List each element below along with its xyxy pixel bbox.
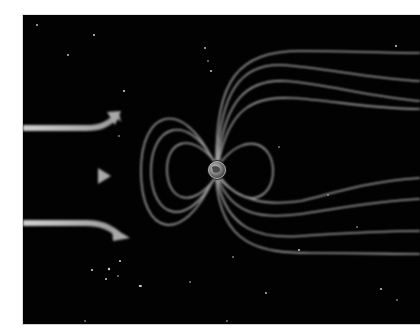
solar-wind-arrow-icon-upper (23, 111, 121, 128)
earth-icon (207, 160, 227, 180)
solar-wind-arrow-icon-lower (23, 223, 130, 241)
space-background (22, 14, 420, 325)
solar-wind-arrow-icon-middle (23, 168, 111, 184)
magnetic-field-lines (141, 51, 420, 254)
solar-wind-arrows (23, 111, 130, 241)
magnetosphere-illustration (23, 15, 420, 324)
